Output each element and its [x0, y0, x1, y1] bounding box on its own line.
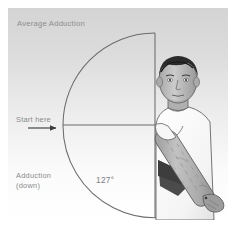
figure-title: Average Adduction: [17, 19, 85, 28]
adduction-label: Adduction: [16, 171, 51, 180]
angle-value-label: 127°: [96, 175, 114, 185]
start-here-label: Start here: [16, 115, 51, 124]
average-adduction-figure: Average Adduction Start here Adduction (…: [0, 0, 236, 229]
adduction-direction-label: (down): [16, 181, 40, 190]
